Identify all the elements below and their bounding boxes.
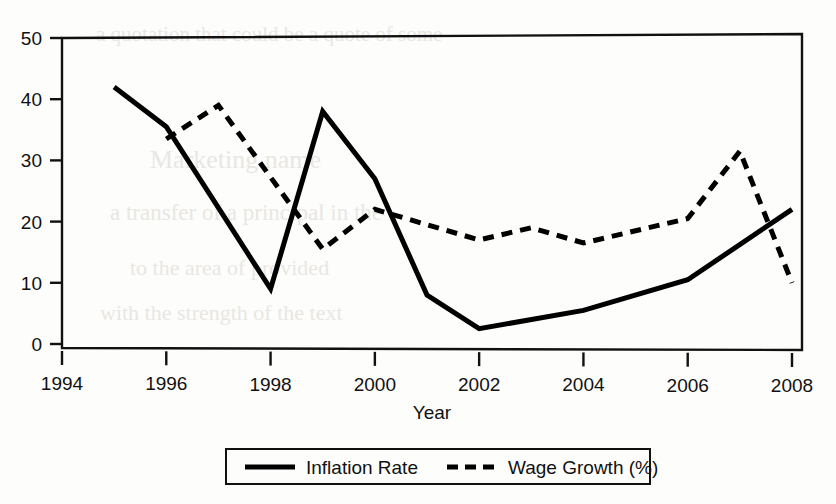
x-tick-label: 2006: [667, 375, 709, 396]
y-tick-label: 40: [21, 89, 42, 110]
series-inflation-rate: [114, 87, 792, 329]
chart-page: a quotation that could be a quote of som…: [0, 0, 836, 504]
x-tick-label: 1998: [249, 374, 291, 395]
series-group: [114, 87, 792, 329]
y-tick-label: 0: [31, 334, 42, 355]
y-tick-label: 30: [21, 150, 42, 171]
series-wage-growth: [166, 105, 792, 282]
x-tick-label: 1996: [145, 373, 187, 394]
y-tick-label: 50: [21, 28, 42, 49]
y-tick-label: 20: [21, 212, 42, 233]
plot-frame: [62, 34, 802, 350]
line-chart: 01020304050 1994199619982000200220042006…: [0, 0, 836, 504]
x-axis-title: Year: [413, 402, 452, 423]
legend-label-wage-growth: Wage Growth (%): [508, 457, 658, 478]
x-tick-label: 1994: [41, 373, 84, 394]
x-tick-label: 2000: [354, 374, 396, 395]
y-axis-ticks: 01020304050: [21, 28, 62, 355]
x-tick-label: 2002: [458, 374, 500, 395]
x-tick-label: 2004: [562, 374, 605, 395]
legend-label-inflation-rate: Inflation Rate: [306, 457, 418, 478]
plot-border: [62, 34, 802, 350]
y-tick-label: 10: [21, 273, 42, 294]
x-tick-label: 2008: [771, 375, 813, 396]
chart-legend: Inflation Rate Wage Growth (%): [226, 449, 658, 484]
x-axis-ticks: 19941996199820002002200420062008: [41, 351, 813, 396]
